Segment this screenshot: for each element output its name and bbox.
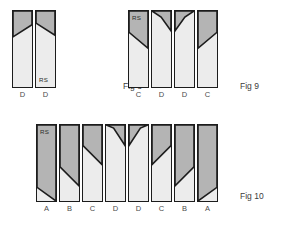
cut-region: [152, 11, 171, 31]
rafter-bar[interactable]: [82, 124, 103, 202]
rs-marker: RS: [40, 129, 49, 135]
cut-region: [198, 11, 217, 48]
bar-cell: D: [174, 10, 195, 99]
bar-shading: [37, 125, 56, 201]
bar-cell: D: [12, 10, 33, 99]
bar-cell: B: [174, 124, 195, 213]
bar-label: C: [197, 91, 218, 99]
bar-cell: RSC: [128, 10, 149, 99]
bar-shading: [106, 125, 125, 201]
cut-region: [83, 125, 102, 165]
bar-label: C: [82, 205, 103, 213]
rafter-bar[interactable]: [174, 124, 195, 202]
bar-label: B: [59, 205, 80, 213]
bar-cell: C: [82, 124, 103, 213]
bar-shading: [60, 125, 79, 201]
rafter-bar[interactable]: [12, 10, 33, 88]
bar-row-fig-9: RSCDDC: [128, 10, 218, 99]
bar-label: D: [105, 205, 126, 213]
bar-shading: [13, 11, 32, 87]
cut-region: [13, 11, 32, 37]
bar-label: B: [174, 205, 195, 213]
bar-label: D: [128, 205, 149, 213]
rs-marker: RS: [132, 15, 141, 21]
rafter-bar[interactable]: [128, 124, 149, 202]
bar-label: C: [151, 205, 172, 213]
bar-cell: C: [197, 10, 218, 99]
cut-region: [37, 125, 56, 201]
cut-region: [36, 11, 55, 35]
bar-cell: RSD: [35, 10, 56, 99]
bar-label: A: [197, 205, 218, 213]
rafter-bar[interactable]: RS: [36, 124, 57, 202]
bar-label: A: [36, 205, 57, 213]
bar-shading: [83, 125, 102, 201]
cut-region: [106, 125, 125, 146]
bar-shading: [175, 11, 194, 87]
figure-caption-fig-9: Fig 9: [240, 82, 259, 91]
bar-shading: [129, 11, 148, 87]
bar-label: D: [35, 91, 56, 99]
bar-cell: C: [151, 124, 172, 213]
figure-caption-fig-10: Fig 10: [240, 192, 264, 201]
bar-shading: [129, 125, 148, 201]
cut-region: [175, 11, 194, 31]
rafter-bar[interactable]: RS: [35, 10, 56, 88]
cut-region: [198, 125, 217, 201]
cut-region: [175, 125, 194, 186]
bar-cell: D: [128, 124, 149, 213]
rs-marker: RS: [39, 77, 48, 83]
bar-label: D: [12, 91, 33, 99]
rafter-bar[interactable]: RS: [128, 10, 149, 88]
rafter-bar[interactable]: [197, 124, 218, 202]
bar-shading: [152, 125, 171, 201]
figure-sheet: DRSDFig 8RSCDDCFig 9RSABCDDCBAFig 10: [0, 0, 288, 228]
bar-label: C: [128, 91, 149, 99]
bar-shading: [175, 125, 194, 201]
bar-cell: B: [59, 124, 80, 213]
cut-region: [129, 125, 148, 146]
bar-cell: A: [197, 124, 218, 213]
rafter-bar[interactable]: [197, 10, 218, 88]
bar-cell: D: [105, 124, 126, 213]
bar-cell: D: [151, 10, 172, 99]
bar-row-fig-10: RSABCDDCBA: [36, 124, 218, 213]
rafter-bar[interactable]: [59, 124, 80, 202]
bar-label: D: [174, 91, 195, 99]
rafter-bar[interactable]: [151, 10, 172, 88]
rafter-bar[interactable]: [105, 124, 126, 202]
bar-shading: [198, 11, 217, 87]
bar-shading: [152, 11, 171, 87]
rafter-bar[interactable]: [151, 124, 172, 202]
rafter-bar[interactable]: [174, 10, 195, 88]
bar-shading: [198, 125, 217, 201]
bar-label: D: [151, 91, 172, 99]
cut-region: [152, 125, 171, 165]
bar-cell: RSA: [36, 124, 57, 213]
cut-region: [60, 125, 79, 186]
bar-row-fig-8: DRSD: [12, 10, 56, 99]
